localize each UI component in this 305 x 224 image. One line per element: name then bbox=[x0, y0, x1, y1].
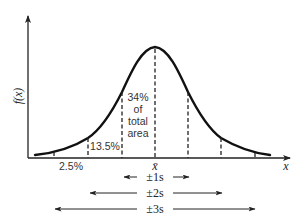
area-2-5-percent: 2.5% bbox=[59, 160, 83, 172]
range-2s: ±2s bbox=[90, 186, 222, 200]
range-3s-label: ±3s bbox=[146, 202, 164, 216]
area-area: area bbox=[127, 127, 148, 139]
x-axis-label: x bbox=[282, 159, 289, 173]
normal-distribution-diagram: f(x) x 34% of total area 13.5% 2.5% x̄ ±… bbox=[0, 0, 305, 224]
center-area-label: 34% of total area bbox=[127, 91, 148, 139]
area-total: total bbox=[128, 115, 148, 127]
area-34-percent: 34% bbox=[127, 91, 148, 103]
range-3s: ±3s bbox=[55, 202, 255, 216]
bell-curve bbox=[35, 47, 270, 155]
range-1s: ±1s bbox=[124, 170, 189, 184]
range-2s-label: ±2s bbox=[146, 186, 164, 200]
range-1s-label: ±1s bbox=[146, 170, 164, 184]
y-axis-label: f(x) bbox=[11, 88, 25, 105]
area-of: of bbox=[134, 103, 143, 115]
area-13-5-percent: 13.5% bbox=[90, 140, 120, 152]
